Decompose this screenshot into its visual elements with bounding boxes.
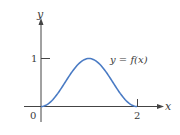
chart: y x 0 2 1 y = f(x) [0, 0, 180, 135]
x-tick-label-2: 2 [134, 110, 140, 121]
y-tick-label-1: 1 [31, 53, 37, 64]
origin-label: 0 [30, 110, 36, 121]
y-axis-label: y [36, 8, 44, 21]
x-axis-arrow-icon [157, 104, 164, 109]
curve-label: y = f(x) [109, 54, 148, 65]
curve-f [41, 59, 137, 107]
x-axis-label: x [165, 100, 172, 113]
